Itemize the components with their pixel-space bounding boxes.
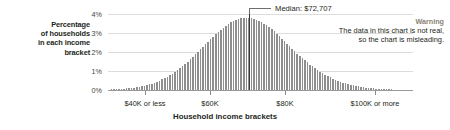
y-tick-label: 4% <box>92 10 102 19</box>
x-tick-mark <box>375 91 376 95</box>
income-distribution-chart: Percentage of households in each income … <box>0 0 450 130</box>
median-annotation-label: Median: $72,707 <box>275 4 332 13</box>
y-tick-label: 1% <box>92 67 102 76</box>
x-tick-mark <box>210 91 211 95</box>
warning-body: The data in this chart is not real, so t… <box>266 26 444 45</box>
warning-body-line-1: The data in this chart is not real, <box>266 26 444 35</box>
x-tick-label: $80K <box>276 99 293 108</box>
median-leader-horizontal <box>249 8 271 9</box>
x-axis-title: Household income brackets <box>0 112 450 121</box>
y-tick-label: 3% <box>92 29 102 38</box>
y-tick-label: 2% <box>92 48 102 57</box>
warning-annotation: Warning The data in this chart is not re… <box>266 17 444 45</box>
warning-body-line-2: so the chart is misleading. <box>266 35 444 44</box>
y-axis-tick-labels: 0%1%2%3%4% <box>60 14 106 90</box>
y-tick-label: 0% <box>92 86 102 95</box>
x-tick-label: $60K <box>201 99 218 108</box>
x-tick-label: $100K or more <box>351 99 400 108</box>
median-line <box>249 14 250 90</box>
x-axis-line <box>108 90 413 91</box>
x-tick-mark <box>285 91 286 95</box>
warning-title: Warning <box>266 17 444 26</box>
x-tick-mark <box>145 91 146 95</box>
x-tick-label: $40K or less <box>124 99 165 108</box>
